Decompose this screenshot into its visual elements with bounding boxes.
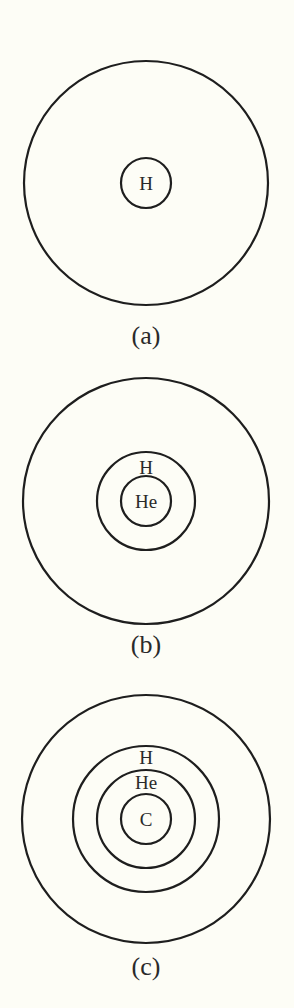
panel-c-hydrogen-label: H xyxy=(139,747,153,768)
stellar-shell-diagram: H (a) H He (b) H He C (c) xyxy=(0,0,294,1008)
panel-c-caption: (c) xyxy=(132,952,161,981)
panel-c-helium-label: He xyxy=(135,772,157,793)
panel-b-hydrogen-label: H xyxy=(139,457,153,478)
panel-a-caption: (a) xyxy=(132,321,161,350)
panel-b-caption: (b) xyxy=(131,630,161,659)
panel-a-core-label: H xyxy=(139,173,153,194)
panel-c-carbon-label: C xyxy=(140,809,153,830)
panel-c: H He C (c) xyxy=(22,695,270,981)
panel-b: H He (b) xyxy=(23,378,269,659)
panel-b-helium-label: He xyxy=(135,491,157,512)
panel-a: H (a) xyxy=(24,61,268,350)
